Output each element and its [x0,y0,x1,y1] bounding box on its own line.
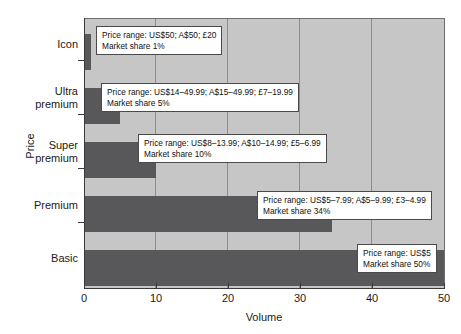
callout-ultra-premium: Price range: US$14–49.99; A$15–49.99; £7… [101,83,299,112]
callout-price-range: Price range: US$8–13.99; A$10–14.99; £5–… [144,138,321,149]
y-axis-label-premium: Premium [6,199,78,212]
x-tick-label-40: 40 [357,292,387,304]
callout-market-share: Market share 50% [363,259,431,270]
callout-super-premium: Price range: US$8–13.99; A$10–14.99; £5–… [138,134,327,163]
y-tick-2 [78,114,84,115]
y-tick-4 [78,222,84,223]
x-tick-30 [300,283,301,289]
x-tick-50 [444,283,445,289]
x-tick-10 [156,283,157,289]
x-tick-label-30: 30 [285,292,315,304]
callout-market-share: Market share 5% [107,98,293,109]
x-tick-20 [228,283,229,289]
y-axis-tick-labels: Icon Ultra premium Super premium Premium… [0,0,78,334]
callout-market-share: Market share 1% [102,41,216,52]
x-tick-label-50: 50 [429,292,459,304]
x-axis-title: Volume [84,311,444,323]
callout-price-range: Price range: US$5 [363,248,431,259]
callout-basic: Price range: US$5 Market share 50% [357,244,437,273]
y-tick-1 [78,60,84,61]
x-tick-40 [372,283,373,289]
callout-market-share: Market share 34% [263,206,426,217]
bar-chart: Price Icon Ultra premium Super premium P… [0,0,461,334]
y-axis-label-icon: Icon [6,38,78,51]
callout-icon: Price range: US$50; A$50; £20 Market sha… [96,26,222,55]
x-tick-0 [84,283,85,289]
y-axis-label-basic: Basic [6,252,78,265]
x-tick-label-10: 10 [141,292,171,304]
callout-price-range: Price range: US$14–49.99; A$15–49.99; £7… [107,87,293,98]
x-axis-line [84,288,445,289]
callout-premium: Price range: US$5–7.99; A$5–9.99; £3–4.9… [257,191,432,220]
x-tick-label-0: 0 [69,292,99,304]
callout-price-range: Price range: US$5–7.99; A$5–9.99; £3–4.9… [263,195,426,206]
bar-icon [84,34,91,70]
callout-price-range: Price range: US$50; A$50; £20 [102,30,216,41]
y-axis-line [84,18,85,289]
y-tick-3 [78,168,84,169]
x-tick-label-20: 20 [213,292,243,304]
y-axis-label-super-premium: Super premium [6,139,78,164]
y-axis-label-ultra-premium: Ultra premium [6,85,78,110]
callout-market-share: Market share 10% [144,149,321,160]
